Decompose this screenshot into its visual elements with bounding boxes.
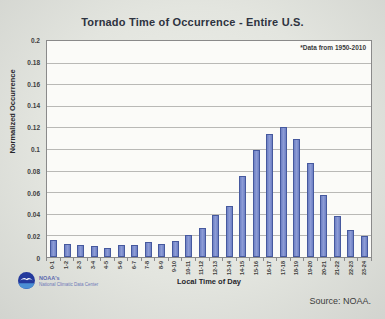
x-tick-slot: 16-17	[263, 261, 277, 278]
bar-slot	[331, 41, 345, 257]
bar-7-8	[145, 242, 152, 257]
y-axis-ticks: 0.20.180.160.140.120.10.080.060.040.020	[0, 40, 43, 258]
x-tick-slot: 15-16	[250, 261, 264, 278]
bar-20-21	[320, 195, 327, 257]
bar-slot	[155, 41, 169, 257]
bar-1-2	[64, 244, 71, 257]
bar-22-23	[347, 230, 354, 257]
y-tick-label: 0.04	[27, 211, 40, 218]
bar-11-12	[199, 228, 206, 257]
y-tick-label: 0	[36, 255, 40, 262]
bar-slot	[344, 41, 358, 257]
bar-slot	[61, 41, 75, 257]
bar-9-10	[172, 241, 179, 257]
y-tick-label: 0.16	[27, 80, 40, 87]
x-tick-label: 15-16	[254, 261, 260, 275]
bar-slot	[304, 41, 318, 257]
bar-3-4	[91, 246, 98, 257]
bar-slot	[169, 41, 183, 257]
x-tick-label: 0-1	[50, 261, 56, 269]
x-tick-slot: 17-18	[277, 261, 291, 278]
bar-14-15	[239, 176, 246, 257]
x-tick-label: 9-10	[172, 261, 178, 272]
x-tick-label: 23-24	[362, 261, 368, 275]
bar-16-17	[266, 134, 273, 257]
x-tick-slot: 8-9	[155, 261, 169, 278]
x-tick-label: 7-8	[145, 261, 151, 269]
x-tick-slot: 7-8	[141, 261, 155, 278]
x-tick-label: 5-6	[118, 261, 124, 269]
bar-4-5	[104, 248, 111, 257]
x-tick-label: 18-19	[294, 261, 300, 275]
noaa-logo-block: NOAA's National Climatic Data Center	[18, 272, 98, 289]
x-tick-slot: 11-12	[195, 261, 209, 278]
bar-slot	[209, 41, 223, 257]
bar-2-3	[77, 245, 84, 257]
x-tick-label: 3-4	[91, 261, 97, 269]
x-tick-label: 4-5	[104, 261, 110, 269]
bar-18-19	[293, 139, 300, 257]
x-tick-label: 14-15	[240, 261, 246, 275]
x-tick-label: 1-2	[64, 261, 70, 269]
bar-slot	[250, 41, 264, 257]
x-tick-slot: 13-14	[223, 261, 237, 278]
y-tick-label: 0.08	[27, 167, 40, 174]
x-tick-slot: 19-20	[304, 261, 318, 278]
data-range-annotation: *Data from 1950-2010	[300, 44, 366, 51]
x-tick-slot: 23-24	[358, 261, 372, 278]
chart-title: Tornado Time of Occurrence - Entire U.S.	[0, 16, 385, 28]
x-tick-slot: 21-22	[331, 261, 345, 278]
bar-slot	[182, 41, 196, 257]
bar-slot	[196, 41, 210, 257]
bar-slot	[290, 41, 304, 257]
bar-19-20	[307, 163, 314, 257]
bar-slot	[277, 41, 291, 257]
bar-15-16	[253, 150, 260, 257]
x-tick-label: 22-23	[349, 261, 355, 275]
noaa-logo-icon	[18, 272, 35, 289]
y-tick-label: 0.06	[27, 189, 40, 196]
x-tick-label: 12-13	[213, 261, 219, 275]
bar-8-9	[158, 244, 165, 257]
x-tick-slot: 18-19	[290, 261, 304, 278]
x-tick-slot: 14-15	[236, 261, 250, 278]
bar-6-7	[131, 245, 138, 257]
bar-slot	[317, 41, 331, 257]
x-tick-label: 16-17	[267, 261, 273, 275]
bar-12-13	[212, 215, 219, 257]
noaa-logo-line2: National Climatic Data Center	[39, 282, 98, 287]
bar-slot	[115, 41, 129, 257]
x-tick-slot: 9-10	[168, 261, 182, 278]
bar-23-24	[361, 236, 368, 257]
source-note: Source: NOAA.	[309, 296, 371, 306]
x-tick-label: 21-22	[335, 261, 341, 275]
y-tick-label: 0.1	[31, 146, 40, 153]
x-tick-label: 6-7	[132, 261, 138, 269]
bars-row	[47, 41, 371, 257]
bar-slot	[101, 41, 115, 257]
bar-slot	[74, 41, 88, 257]
x-tick-slot: 6-7	[127, 261, 141, 278]
bar-slot	[263, 41, 277, 257]
x-tick-slot: 5-6	[114, 261, 128, 278]
x-tick-label: 20-21	[322, 261, 328, 275]
x-tick-slot: 22-23	[345, 261, 359, 278]
x-tick-label: 8-9	[159, 261, 165, 269]
y-tick-label: 0.02	[27, 233, 40, 240]
x-tick-slot: 4-5	[100, 261, 114, 278]
x-tick-label: 13-14	[227, 261, 233, 275]
x-tick-label: 17-18	[281, 261, 287, 275]
bar-slot	[223, 41, 237, 257]
y-tick-label: 0.14	[27, 102, 40, 109]
bar-slot	[358, 41, 372, 257]
chart-page: Tornado Time of Occurrence - Entire U.S.…	[0, 0, 385, 319]
bar-13-14	[226, 206, 233, 257]
bar-slot	[236, 41, 250, 257]
bar-10-11	[185, 235, 192, 257]
x-tick-slot: 10-11	[182, 261, 196, 278]
bar-slot	[128, 41, 142, 257]
x-tick-label: 10-11	[186, 261, 192, 275]
x-tick-label: 19-20	[308, 261, 314, 275]
y-tick-label: 0.2	[31, 37, 40, 44]
x-tick-slot: 20-21	[318, 261, 332, 278]
